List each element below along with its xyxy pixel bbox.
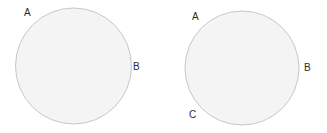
circle-1-label-b: B <box>133 62 140 72</box>
circle-2-label-a: A <box>192 12 199 22</box>
circle-1-label-a: A <box>24 8 31 18</box>
shape-layer <box>0 0 327 133</box>
diagram-canvas: ABABC <box>0 0 327 133</box>
circle-2-label-b: B <box>304 63 311 73</box>
circle-2-label-c: C <box>189 110 196 120</box>
circle-1 <box>16 8 132 124</box>
circle-2 <box>185 11 299 125</box>
